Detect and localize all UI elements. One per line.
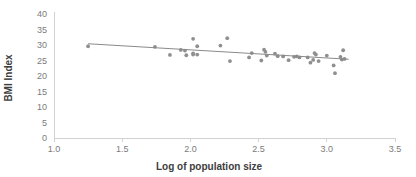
data-point (332, 64, 336, 68)
data-point (309, 61, 313, 65)
y-tick-label: 0 (42, 133, 47, 143)
y-tick-label: 20 (37, 71, 47, 81)
x-tick-label: 2.5 (252, 144, 265, 154)
y-axis: 0510152025303540 (37, 9, 54, 143)
y-tick-label: 40 (37, 9, 47, 19)
data-point (219, 44, 223, 48)
x-axis: 1.01.52.02.53.03.5 (48, 138, 402, 154)
data-point (287, 58, 291, 62)
data-point (184, 53, 188, 57)
x-tick-label: 3.0 (321, 144, 334, 154)
data-point (311, 58, 315, 62)
y-tick-label: 15 (37, 87, 47, 97)
y-tick-label: 5 (42, 118, 47, 128)
trend-line (88, 44, 349, 60)
y-tick-label: 25 (37, 56, 47, 66)
scatter-plot: 0510152025303540 1.01.52.02.53.03.5 Log … (0, 0, 416, 177)
data-point (333, 71, 337, 75)
data-point (247, 56, 251, 60)
data-point (191, 53, 195, 57)
x-tick-label: 3.5 (389, 144, 402, 154)
data-point (341, 48, 345, 52)
data-point (264, 50, 268, 54)
data-point (225, 36, 229, 40)
data-point (86, 44, 90, 48)
trend-line-segment (88, 44, 349, 60)
data-point (317, 59, 321, 63)
data-point (195, 53, 199, 57)
y-tick-label: 30 (37, 40, 47, 50)
data-point (195, 44, 199, 48)
chart-container: 0510152025303540 1.01.52.02.53.03.5 Log … (0, 0, 416, 177)
data-points (86, 36, 346, 75)
data-point (168, 53, 172, 57)
data-point (179, 48, 183, 52)
data-point (228, 59, 232, 63)
data-point (191, 37, 195, 41)
y-tick-label: 35 (37, 25, 47, 35)
x-tick-label: 1.0 (48, 144, 61, 154)
x-tick-label: 2.0 (184, 144, 197, 154)
y-tick-label: 10 (37, 102, 47, 112)
data-point (259, 59, 263, 63)
data-point (314, 53, 318, 57)
x-axis-title: Log of population size (156, 161, 263, 172)
y-axis-title: BMI Index (3, 54, 14, 102)
data-point (325, 54, 329, 58)
x-tick-label: 1.5 (116, 144, 129, 154)
